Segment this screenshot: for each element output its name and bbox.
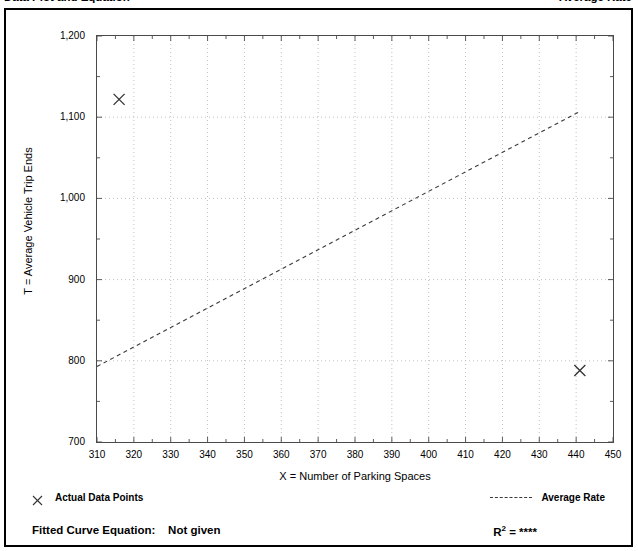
x-axis-tick-label: 380	[335, 450, 375, 460]
x-axis-tick-label: 390	[372, 450, 412, 460]
fitted-curve-equation-label: Fitted Curve Equation:	[32, 524, 155, 536]
page-header-right-title: Average Rate	[559, 0, 632, 3]
x-axis-tick-label: 370	[298, 450, 338, 460]
page-header-left-title: Data Plot and Equation	[4, 0, 130, 3]
chart-block: T = Average Vehicle Trip Ends 7008009001…	[6, 10, 631, 480]
y-axis-tick-label: 700	[68, 437, 85, 447]
x-axis-tick-label: 330	[151, 450, 191, 460]
x-axis-tick-label: 350	[224, 450, 264, 460]
legend-label-average-rate: Average Rate	[541, 492, 605, 503]
y-axis-tick-label: 800	[68, 356, 85, 366]
r-squared-label: R	[493, 526, 501, 538]
x-axis-tick-label: 340	[188, 450, 228, 460]
legend-item-average-rate: Average Rate	[490, 492, 605, 503]
x-axis-tick-label: 430	[519, 450, 559, 460]
chart-legend: Actual Data Points Average Rate	[6, 492, 631, 516]
fitted-curve-equation: Fitted Curve Equation: Not given	[32, 524, 221, 536]
x-axis-tick-label: 320	[114, 450, 154, 460]
y-axis-tick-labels: 7008009001,0001,1001,200	[46, 35, 91, 443]
r-squared-value: ****	[519, 526, 537, 538]
y-axis-tick-label: 1,000	[60, 193, 85, 203]
r-squared-equals: =	[506, 526, 519, 538]
y-axis-tick-label: 1,100	[60, 112, 85, 122]
chart-footer: Fitted Curve Equation: Not given R2 = **…	[6, 524, 631, 548]
x-axis-tick-label: 420	[482, 450, 522, 460]
y-axis-title: T = Average Vehicle Trip Ends	[22, 121, 34, 321]
fitted-curve-equation-value: Not given	[168, 524, 220, 536]
legend-label-actual-data-points: Actual Data Points	[55, 492, 143, 503]
plot-canvas	[97, 36, 613, 442]
figure-frame: T = Average Vehicle Trip Ends 7008009001…	[4, 8, 633, 547]
page-header: Data Plot and Equation Average Rate	[0, 0, 638, 7]
dashed-line-icon	[490, 497, 532, 498]
x-axis-tick-label: 400	[409, 450, 449, 460]
plot-area	[96, 35, 614, 443]
legend-item-actual-data-points: Actual Data Points	[32, 492, 143, 503]
x-axis-tick-label: 410	[446, 450, 486, 460]
x-axis-title: X = Number of Parking Spaces	[96, 470, 614, 482]
x-axis-tick-label: 440	[556, 450, 596, 460]
y-axis-tick-label: 900	[68, 275, 85, 285]
x-axis-tick-label: 310	[77, 450, 117, 460]
x-axis-tick-label: 450	[593, 450, 633, 460]
r-squared-statistic: R2 = ****	[493, 524, 537, 538]
y-axis-tick-label: 1,200	[60, 31, 85, 41]
x-axis-tick-labels: 3103203303403503603703803904004104204304…	[96, 450, 614, 464]
x-marker-icon	[32, 492, 43, 503]
x-axis-tick-label: 360	[261, 450, 301, 460]
